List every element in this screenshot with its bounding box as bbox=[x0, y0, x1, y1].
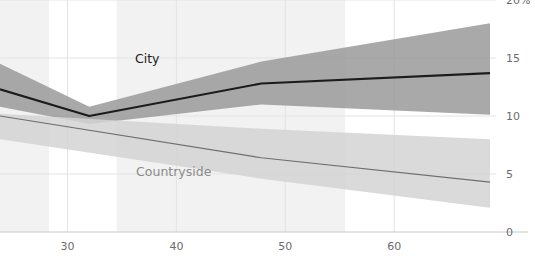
line-chart-with-confidence-bands: 05101520% 30405060 City Countryside bbox=[0, 0, 535, 258]
y-tick-label-0: 0 bbox=[506, 226, 513, 239]
x-tick-label-40: 40 bbox=[169, 240, 183, 253]
x-tick-label-50: 50 bbox=[278, 240, 292, 253]
y-tick-label-5: 5 bbox=[506, 168, 513, 181]
y-tick-label-10: 10 bbox=[506, 110, 520, 123]
x-tick-label-30: 30 bbox=[61, 240, 75, 253]
y-tick-label-20: 20% bbox=[506, 0, 530, 7]
series-annotation-city: City bbox=[135, 51, 160, 66]
chart-container: 05101520% 30405060 City Countryside bbox=[0, 0, 535, 258]
x-tick-label-60: 60 bbox=[387, 240, 401, 253]
series-annotation-countryside: Countryside bbox=[136, 164, 212, 179]
y-axis-tick-labels: 05101520% bbox=[506, 0, 530, 239]
y-tick-label-15: 15 bbox=[506, 52, 520, 65]
x-axis-tick-labels: 30405060 bbox=[61, 240, 402, 253]
